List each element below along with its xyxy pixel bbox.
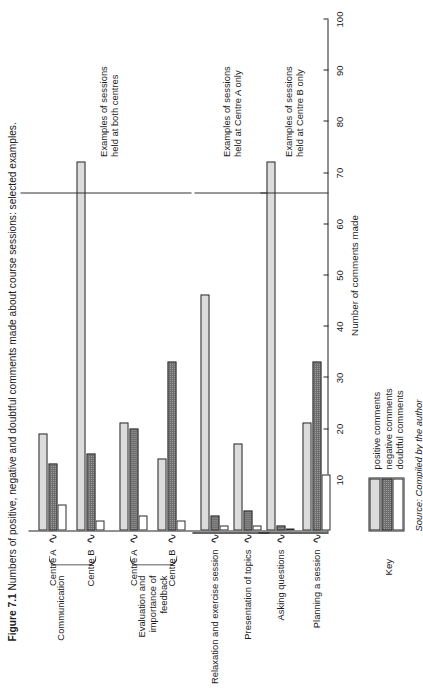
outer-group-label-line: feedback [157,575,168,688]
bar-pos [302,422,311,530]
bar-neg [243,510,252,530]
outer-group-label-line: Evaluation and [135,575,146,688]
bar-dbt [95,520,104,530]
axis-break-squiggle: ∿ [273,533,288,543]
key-swatch-neg [381,478,392,530]
chart-key: Keypositive commentsnegative commentsdou… [366,231,412,531]
section-vertical-rule [194,192,267,193]
key-title: Key [382,558,393,575]
bar-group [119,18,147,530]
section-note-line: held at Centre B only [293,66,304,157]
figure-title: Figure 7.1 Numbers of positive, negative… [6,9,18,641]
bar-pos [76,161,85,530]
section-vertical-rule [20,192,191,193]
bar-dbt [285,528,294,530]
bar-dbt [321,474,330,530]
axis-break-squiggle: ∿ [126,533,141,543]
outer-group-label-line: Communication [54,575,65,688]
axis-break-squiggle: ∿ [240,533,255,543]
category-label: Relaxation and exercise session [209,549,220,688]
bar-pos [200,294,209,530]
bar-dbt [57,504,66,530]
category-label: Presentation of topics [242,549,253,688]
bar-pos [157,458,166,530]
axis-tick-label: 20 [333,423,344,434]
section-note: Examples of sessionsheld at Centre A onl… [220,66,242,157]
key-label: positive comments [370,391,381,469]
axis-tick-label: 60 [333,219,344,230]
bar-dbt [138,515,147,530]
axis-tick-label: 50 [333,270,344,281]
bar-dbt [176,520,185,530]
axis-tick-label: 40 [333,321,344,332]
axis-tick-label: 100 [333,11,344,27]
figure-number: Figure 7.1 [6,593,17,641]
bar-dbt [219,525,228,530]
chart-plot-area: 102030405060708090100 Number of comments… [28,19,328,531]
bar-group [302,18,330,530]
bar-neg [167,361,176,530]
axis-tick-label: 10 [333,475,344,486]
outer-group-brace [48,555,96,565]
axis-tick-label: 80 [333,116,344,127]
section-divider [192,532,269,533]
bar-pos [38,433,47,530]
bar-pos [233,443,242,530]
section-vertical-rule [260,192,328,193]
bar-dbt [252,525,261,530]
axis-break-squiggle: ∿ [164,533,179,543]
section-note-line: Examples of sessions [97,66,108,157]
section-note-line: held at Centre A only [231,66,242,157]
category-label: Asking questions [275,549,286,688]
bar-neg [129,428,138,530]
bar-neg [210,515,219,530]
x-axis-title: Number of comments made [348,215,359,336]
bar-pos [119,422,128,530]
bar-neg [276,525,285,530]
section-note-line: Examples of sessions [220,66,231,157]
outer-group-brace [129,555,177,565]
key-swatch-pos [369,478,380,530]
axis-break-squiggle: ∿ [309,533,324,543]
outer-group-label: Communication [54,575,65,688]
bar-group [157,18,185,530]
section-note: Examples of sessionsheld at both centres [97,66,119,157]
outer-group-label-line: importance of [146,575,157,688]
bar-neg [312,361,321,530]
axis-tick-label: 90 [333,65,344,76]
key-label: negative comments [382,388,393,469]
section-note-line: held at both centres [108,66,119,157]
category-label: Centre B [85,549,96,688]
bar-neg [86,453,95,530]
section-note: Examples of sessionsheld at Centre B onl… [282,66,304,157]
axis-break-squiggle: ∿ [207,533,222,543]
category-label: Planning a session [311,549,322,688]
axis-break-squiggle: ∿ [45,533,60,543]
outer-group-label: Evaluation andimportance offeedback [135,575,168,688]
section-note-line: Examples of sessions [282,66,293,157]
bar-pos [266,161,275,530]
bar-neg [48,463,57,530]
section-divider [258,532,328,533]
key-swatch-dbt [392,478,403,530]
axis-tick-label: 30 [333,372,344,383]
axis-tick-label: 70 [333,167,344,178]
bar-group [38,18,66,530]
axis-break-squiggle: ∿ [83,533,98,543]
figure-caption: Numbers of positive, negative and doubtf… [6,122,17,590]
key-label: doubtful comments [393,390,404,469]
source-note: Source: Compiled by the author [412,399,423,531]
